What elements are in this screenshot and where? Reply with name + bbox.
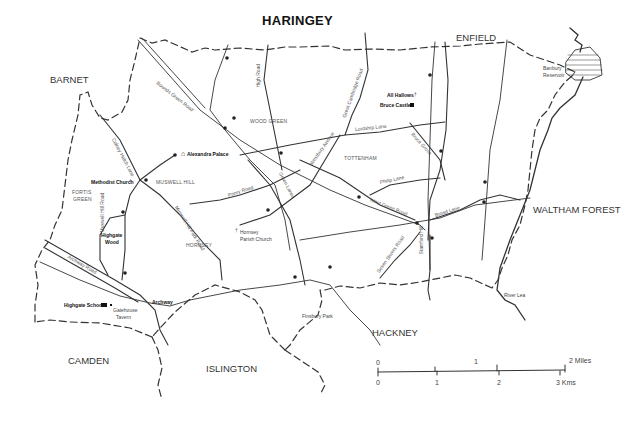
scale-miles-1: 1 (474, 358, 478, 365)
river-lea (497, 28, 583, 320)
borough-enfield: ENFIELD (456, 33, 496, 43)
scale-bar (378, 365, 565, 376)
scale-km-2: 2 (497, 379, 501, 386)
borough-boundary (35, 38, 575, 350)
road-muswell-hill-road: Muswell Hill Road (100, 193, 105, 233)
borough-camden: CAMDEN (68, 356, 109, 366)
place-hornsey-parish-church: Parish Church (240, 237, 272, 242)
place-river-lea: River Lea (504, 293, 525, 298)
place-archway: Archway (152, 300, 173, 305)
district-wood-green: WOOD GREEN (250, 119, 287, 124)
borough-barnet: BARNET (50, 75, 89, 85)
palace-icon: ⌂ (181, 150, 185, 157)
reservoir-boundary (572, 72, 575, 76)
building-icon (410, 103, 414, 107)
church-icon: † (129, 179, 132, 184)
map-title: HARINGEY (262, 14, 333, 27)
district-muswell-hill: MUSWELL HILL (156, 180, 195, 185)
banbury-reservoir (566, 47, 602, 80)
railways (40, 38, 530, 345)
place-highgate: Highgate (101, 233, 122, 238)
place-finsbury-park: Finsbury Park (302, 314, 333, 319)
scale-km-1: 1 (435, 379, 439, 386)
tavern-icon (110, 304, 112, 306)
road-high-road: High Road (256, 64, 261, 88)
scale-miles-0: 0 (376, 359, 380, 366)
building-icon (101, 303, 107, 307)
church-icon: † (414, 92, 417, 97)
place-all-hallows: All Hallows (387, 93, 414, 98)
place-banbury-reservoir: Reservoir (543, 73, 564, 78)
place-banbury: Banbury (543, 66, 562, 71)
place-highgate-school: Highgate School (64, 303, 103, 308)
scale-km-3: 3 Kms (556, 379, 576, 386)
borough-waltham-forest: WALTHAM FOREST (533, 205, 621, 215)
district-green: GREEN (73, 197, 92, 202)
scale-km-0: 0 (376, 379, 380, 386)
borough-islington: ISLINGTON (206, 364, 257, 374)
road-stamford-hill: Stamford Hill (419, 226, 424, 255)
scale-miles-2: 2 Miles (569, 357, 591, 364)
place-gatehouse-tavern: Tavern (116, 315, 131, 320)
place-methodist-church: Methodist Church (91, 180, 134, 185)
district-fortis: FORTIS (72, 190, 91, 195)
place-hornsey-parish: Hornsey (240, 230, 259, 235)
place-bruce-castle: Bruce Castle (380, 103, 411, 108)
church-icon: † (235, 228, 238, 233)
camden-islington-boundary (152, 337, 162, 400)
place-gatehouse: Gatehouse (113, 308, 137, 313)
district-tottenham: TOTTENHAM (344, 156, 377, 161)
place-highgate-wood: Wood (105, 240, 119, 245)
place-alexandra-palace: Alexandra Palace (187, 152, 228, 157)
borough-hackney: HACKNEY (372, 328, 418, 338)
islington-hackney-boundary (285, 350, 325, 395)
roads (45, 33, 520, 345)
